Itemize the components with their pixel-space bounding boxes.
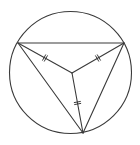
- geometry-diagram: [0, 0, 140, 145]
- segment-OB: [72, 43, 124, 73]
- segment-OA: [18, 43, 72, 73]
- tick-mark-OC: [74, 103, 81, 104]
- side-BC: [83, 43, 124, 133]
- equal-segments: [18, 43, 124, 133]
- triangle: [18, 43, 124, 133]
- tick-mark-OC: [74, 101, 81, 102]
- segment-OC: [72, 73, 83, 133]
- side-CA: [18, 43, 83, 133]
